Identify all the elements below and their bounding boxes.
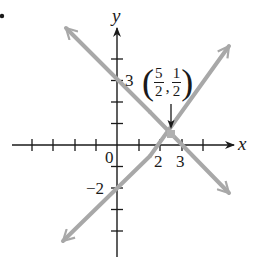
y-tick-label-3: 3 — [125, 72, 134, 89]
open-paren: ( — [142, 64, 154, 100]
x-tick-label-2: 2 — [154, 153, 163, 170]
comma: , — [166, 78, 170, 95]
x-axis-label: x — [238, 134, 246, 153]
x-axis — [12, 139, 234, 151]
bullet-dot — [0, 14, 4, 18]
line-x-plus-y-eq-3 — [66, 28, 229, 193]
y-tick-label-neg2: −2 — [86, 180, 104, 197]
x-fraction-denominator: 2 — [155, 83, 163, 99]
y-fraction: 1 2 — [172, 66, 182, 99]
graph-canvas — [0, 0, 261, 267]
intersection-point — [167, 130, 175, 138]
y-axis — [111, 28, 123, 257]
y-fraction-denominator: 2 — [173, 83, 181, 99]
x-fraction: 5 2 — [154, 66, 164, 99]
close-paren: ) — [181, 64, 193, 100]
x-fraction-numerator: 5 — [154, 66, 164, 83]
origin-label: 0 — [105, 149, 114, 166]
intersection-label: ( 5 2 , 1 2 ) — [142, 64, 193, 100]
y-axis-label: y — [112, 6, 120, 25]
y-fraction-numerator: 1 — [172, 66, 182, 83]
x-tick-label-3: 3 — [176, 153, 185, 170]
